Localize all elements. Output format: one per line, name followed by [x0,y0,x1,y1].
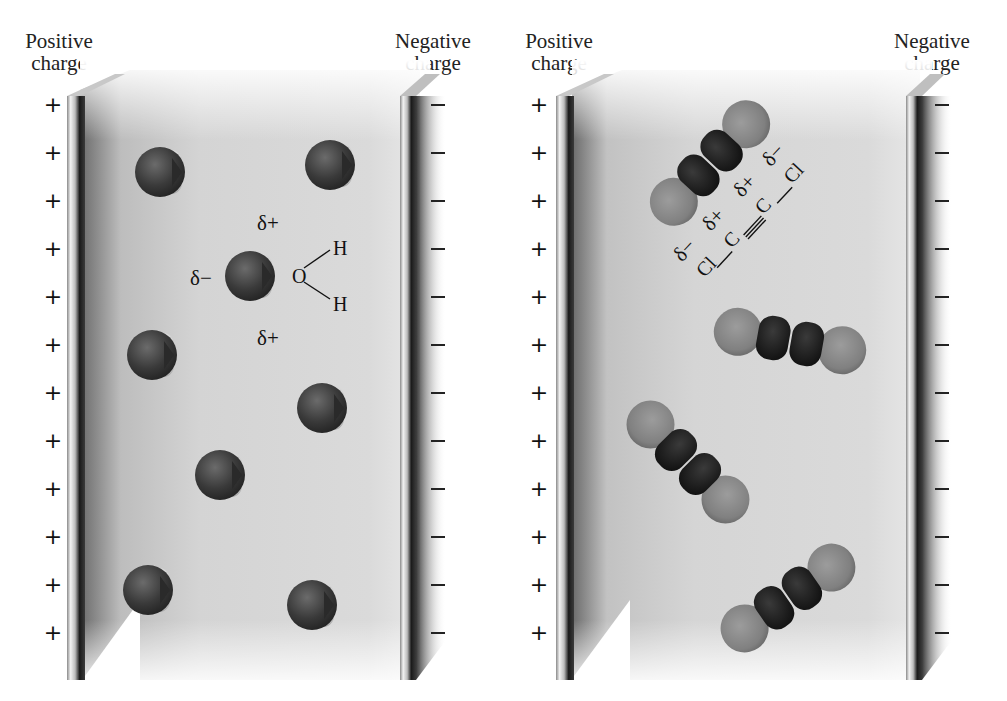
minus-sign [935,584,949,586]
plus-sign: + [529,478,549,500]
minus-sign [431,536,445,538]
delta-plus-top: δ+ [257,212,279,234]
water-molecule [135,147,185,197]
water-molecule [305,140,355,190]
plus-sign: + [529,430,549,452]
minus-sign [431,488,445,490]
plus-sign: + [43,382,63,404]
plus-sign: + [43,622,63,644]
water-field-diagram [0,0,500,701]
minus-sign [431,344,445,346]
minus-sign [431,296,445,298]
delta-plus-bottom: δ+ [257,327,279,349]
panel-water: Positive charge Negative charge [0,0,500,701]
atom-hydrogen-bottom: H [333,294,347,314]
minus-sign [935,536,949,538]
plus-sign: + [43,334,63,356]
water-molecule [287,580,337,630]
plus-sign: + [43,430,63,452]
plus-sign: + [529,94,549,116]
minus-sign [935,344,949,346]
minus-sign [431,392,445,394]
plus-sign: + [529,526,549,548]
water-molecule [127,330,177,380]
delta-minus-left: δ− [190,267,212,289]
minus-sign [431,440,445,442]
plus-sign: + [43,478,63,500]
minus-sign [431,200,445,202]
atom-hydrogen-top: H [333,238,347,258]
water-molecule [195,450,245,500]
plus-sign: + [529,622,549,644]
plus-sign: + [529,142,549,164]
minus-sign [935,488,949,490]
plus-sign: + [529,574,549,596]
plus-sign: + [529,382,549,404]
plus-sign: + [529,238,549,260]
minus-sign [935,296,949,298]
minus-sign [431,152,445,154]
minus-sign [935,392,949,394]
water-molecule [297,383,347,433]
minus-sign [935,248,949,250]
plus-sign: + [529,334,549,356]
minus-sign [935,440,949,442]
plus-sign: + [43,574,63,596]
dichloroacetylene-field-diagram [500,0,1007,701]
plus-sign: + [43,142,63,164]
plus-sign: + [43,190,63,212]
atom-oxygen: O [292,266,306,286]
plus-sign: + [43,94,63,116]
minus-sign [431,584,445,586]
minus-sign [935,152,949,154]
minus-sign [431,632,445,634]
plus-sign: + [529,286,549,308]
plus-sign: + [529,190,549,212]
minus-sign [431,104,445,106]
minus-sign [935,632,949,634]
minus-sign [935,104,949,106]
plus-sign: + [43,526,63,548]
panel-dichloroacetylene: Positive charge Negative charge [500,0,1007,701]
water-molecule [123,565,173,615]
water-molecule-labeled [225,251,275,301]
minus-sign [431,248,445,250]
plus-sign: + [43,286,63,308]
minus-sign [935,200,949,202]
plus-sign: + [43,238,63,260]
